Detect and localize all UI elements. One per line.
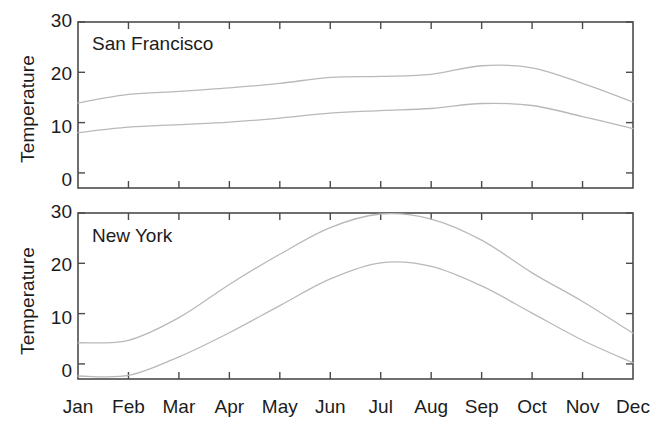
panel1-plot-area <box>70 14 640 204</box>
panel2-y-axis-label: Temperature <box>16 221 40 381</box>
panel2-ytick-0: 0 <box>34 360 72 382</box>
series-line-high <box>78 214 633 343</box>
panel1-y-axis-label: Temperature <box>16 29 40 189</box>
x-tick-label-dec: Dec <box>603 396 656 418</box>
panel1-ytick-0: 0 <box>34 169 72 191</box>
panel1-ytick-30: 30 <box>34 10 72 32</box>
panel-frame <box>78 22 633 188</box>
panel1-ytick-10: 10 <box>34 116 72 138</box>
series-line-low <box>78 103 633 132</box>
panel1-ytick-20: 20 <box>34 63 72 85</box>
panel2-ytick-20: 20 <box>34 254 72 276</box>
series-line-low <box>78 262 633 377</box>
panel2-ytick-30: 30 <box>34 201 72 223</box>
panel2-plot-area <box>70 205 640 395</box>
series-line-high <box>78 65 633 103</box>
temperature-figure: Temperature 30 20 10 0 San Francisco Tem… <box>0 0 656 435</box>
panel-frame <box>78 213 633 379</box>
panel2-ytick-10: 10 <box>34 307 72 329</box>
